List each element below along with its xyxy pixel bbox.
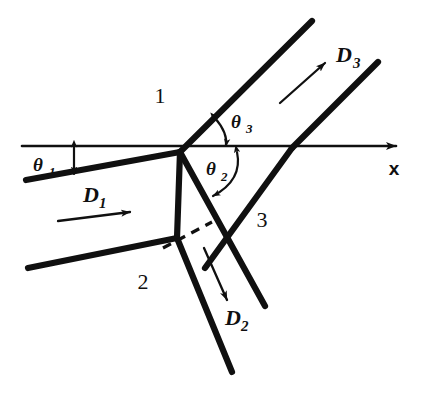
vector-D3-arrow — [280, 63, 325, 103]
theta-2-subscript: 2 — [220, 169, 228, 184]
vector-D1-arrow — [58, 212, 130, 221]
diagram-canvas: θ 1 θ 3 θ 2 D 1 D 3 D 2 1 2 3 x — [0, 0, 423, 406]
theta-1-subscript: 1 — [49, 164, 56, 179]
mach-stem-line — [177, 152, 180, 238]
theta-3-subscript: 3 — [245, 121, 253, 136]
region-label-2: 2 — [138, 269, 149, 294]
region-label-3: 3 — [257, 207, 268, 232]
lower-shock-line — [177, 238, 232, 372]
vector-D2-subscript: 2 — [240, 318, 249, 334]
theta-3-label: θ — [231, 111, 241, 132]
region-label-1: 1 — [155, 83, 166, 108]
vector-D3-label: D — [335, 42, 352, 67]
theta-2-label: θ — [206, 158, 216, 179]
shock-wave-diagram: θ 1 θ 3 θ 2 D 1 D 3 D 2 1 2 3 x — [0, 0, 423, 406]
slip-line-right — [205, 148, 292, 268]
theta-3-arc-arrow — [215, 118, 226, 146]
theta-1-label: θ — [33, 154, 43, 175]
vector-D3-subscript: 3 — [352, 55, 361, 71]
vector-D1-subscript: 1 — [99, 195, 107, 211]
dashed-reference-line — [163, 222, 212, 248]
lower-interface-line — [28, 238, 177, 268]
contact-discontinuity-upper-line — [292, 62, 378, 148]
x-axis-label: x — [389, 158, 400, 179]
vector-D1-label: D — [82, 182, 99, 207]
vector-D2-label: D — [224, 305, 241, 330]
